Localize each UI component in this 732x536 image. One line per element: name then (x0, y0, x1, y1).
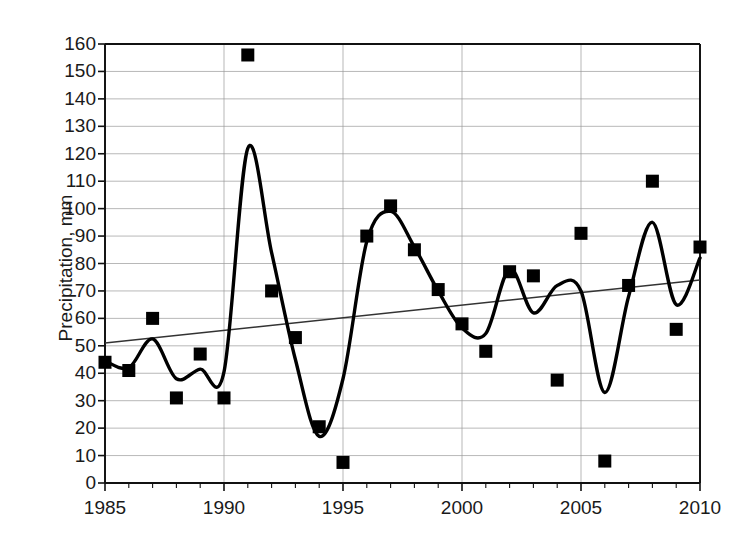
data-point-marker (622, 279, 635, 292)
data-point-marker (289, 331, 302, 344)
precipitation-chart: Precipitation, mm 0102030405060708090100… (0, 0, 732, 536)
y-axis-ticks (98, 44, 105, 483)
data-point-marker (479, 345, 492, 358)
data-point-marker (527, 269, 540, 282)
data-point-marker (551, 374, 564, 387)
data-point-markers (99, 48, 707, 468)
data-point-marker (456, 317, 469, 330)
data-point-marker (241, 48, 254, 61)
data-point-marker (265, 284, 278, 297)
data-point-marker (575, 227, 588, 240)
data-point-marker (122, 364, 135, 377)
trend-line-path (105, 280, 700, 343)
data-point-marker (408, 243, 421, 256)
data-point-marker (598, 455, 611, 468)
data-point-marker (337, 456, 350, 469)
linear-trend-line (105, 280, 700, 343)
data-point-marker (218, 391, 231, 404)
data-point-marker (360, 230, 373, 243)
data-point-marker (670, 323, 683, 336)
plot-area (0, 0, 732, 536)
horizontal-gridlines (105, 44, 700, 483)
data-point-marker (146, 312, 159, 325)
data-point-marker (432, 283, 445, 296)
data-point-marker (170, 391, 183, 404)
data-point-marker (384, 199, 397, 212)
data-point-marker (194, 348, 207, 361)
data-point-marker (503, 265, 516, 278)
data-point-marker (646, 175, 659, 188)
data-point-marker (694, 241, 707, 254)
x-axis-ticks (105, 483, 700, 491)
data-point-marker (313, 420, 326, 433)
data-point-marker (99, 356, 112, 369)
